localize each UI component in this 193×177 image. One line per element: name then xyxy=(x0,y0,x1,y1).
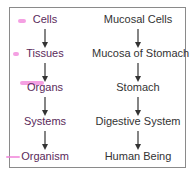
example-digestive-system: Digestive System xyxy=(92,115,184,128)
down-arrow-icon xyxy=(92,131,184,151)
down-arrow-icon xyxy=(12,63,78,83)
level-tissues: Tissues xyxy=(12,47,78,60)
down-arrow-icon xyxy=(12,131,78,151)
example-stomach: Stomach xyxy=(92,81,184,94)
down-arrow-icon xyxy=(92,29,184,49)
down-arrow-icon xyxy=(12,29,78,49)
examples-column: Mucosal Cells Mucosa of Stomach Stomach … xyxy=(92,7,184,168)
example-mucosal-cells: Mucosal Cells xyxy=(92,13,184,26)
down-arrow-icon xyxy=(92,97,184,117)
levels-column: Cells Tissues Organs Systems Organism xyxy=(12,7,78,168)
level-cells: Cells xyxy=(12,13,78,26)
level-organs: Organs xyxy=(12,81,78,94)
down-arrow-icon xyxy=(92,63,184,83)
level-systems: Systems xyxy=(12,115,78,128)
example-mucosa-of-stomach: Mucosa of Stomach xyxy=(92,47,184,60)
level-organism: Organism xyxy=(12,150,78,163)
example-human-being: Human Being xyxy=(92,150,184,163)
down-arrow-icon xyxy=(12,97,78,117)
